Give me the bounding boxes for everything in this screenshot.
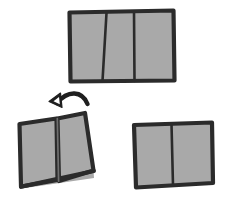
fold-diagram xyxy=(0,0,230,213)
step-unfolded-sheet xyxy=(70,11,175,82)
step-folded-sheet xyxy=(134,123,213,188)
unfolded-sheet-fill xyxy=(70,11,175,82)
unfolded-crease-right xyxy=(134,12,135,81)
folding-left-panel-fill xyxy=(20,119,58,187)
folded-crease-center xyxy=(172,124,174,186)
step-folding-sheet xyxy=(20,113,95,189)
diagram-canvas xyxy=(0,0,230,213)
